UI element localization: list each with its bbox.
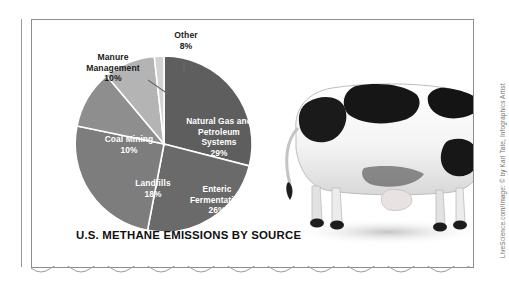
pie-label-manure-management: Manure Management 10%	[70, 52, 156, 84]
cow-patch-back	[344, 84, 420, 123]
pie-value-enteric-fermentation: 26%	[178, 205, 256, 216]
left-vertical-rule	[21, 19, 22, 267]
cow-leg-front-right	[456, 188, 465, 222]
pie-label-natural-gas: Natural Gas and Petroleum Systems 29%	[177, 116, 261, 158]
pie-label-manure-line2: Management	[70, 63, 156, 74]
pie-value-other: 8%	[160, 41, 212, 52]
pie-value-landfills: 18%	[122, 189, 184, 200]
pie-label-enteric-line2: Fermentation	[178, 195, 256, 206]
pie-label-landfills-line1: Landfills	[122, 178, 184, 189]
cow-udder	[381, 189, 412, 210]
cow-illustration	[260, 44, 474, 260]
pie-label-enteric-line1: Enteric	[178, 184, 256, 195]
pie-label-natural-gas-line3: Systems	[177, 137, 261, 148]
cow-hoof-front-right	[453, 221, 467, 230]
cow-photo	[260, 44, 474, 260]
cow-hoof-rear-left	[310, 219, 324, 228]
pie-label-natural-gas-line1: Natural Gas and	[177, 116, 261, 127]
cow-leg-rear-left	[312, 186, 322, 220]
pie-label-manure-line1: Manure	[70, 52, 156, 63]
pie-value-manure-management: 10%	[70, 73, 156, 84]
pie-label-coal-line1: Coal Mining	[93, 134, 165, 145]
cow-leg-front-left	[436, 190, 445, 224]
pie-value-coal-mining: 10%	[93, 145, 165, 156]
pie-label-other: Other 8%	[160, 30, 212, 51]
pie-label-coal-mining: Coal Mining 10%	[93, 134, 165, 155]
pie-label-landfills: Landfills 18%	[122, 178, 184, 199]
cow-leg-rear-right	[332, 188, 342, 222]
pie-label-natural-gas-line2: Petroleum	[177, 127, 261, 138]
pie-label-enteric-fermentation: Enteric Fermentation 26%	[178, 184, 256, 216]
pie-value-natural-gas: 29%	[177, 148, 261, 159]
infographic-panel: Natural Gas and Petroleum Systems 29% En…	[31, 19, 474, 268]
infographic-root: Natural Gas and Petroleum Systems 29% En…	[0, 0, 509, 288]
cow-hoof-front-left	[433, 223, 447, 232]
cow-hoof-rear-right	[330, 221, 344, 230]
pie-label-other-line1: Other	[160, 30, 212, 41]
image-credit: LiveScience.com/Image: © by Karl Tate, I…	[497, 0, 509, 288]
cow-tail-tuft	[286, 182, 292, 200]
